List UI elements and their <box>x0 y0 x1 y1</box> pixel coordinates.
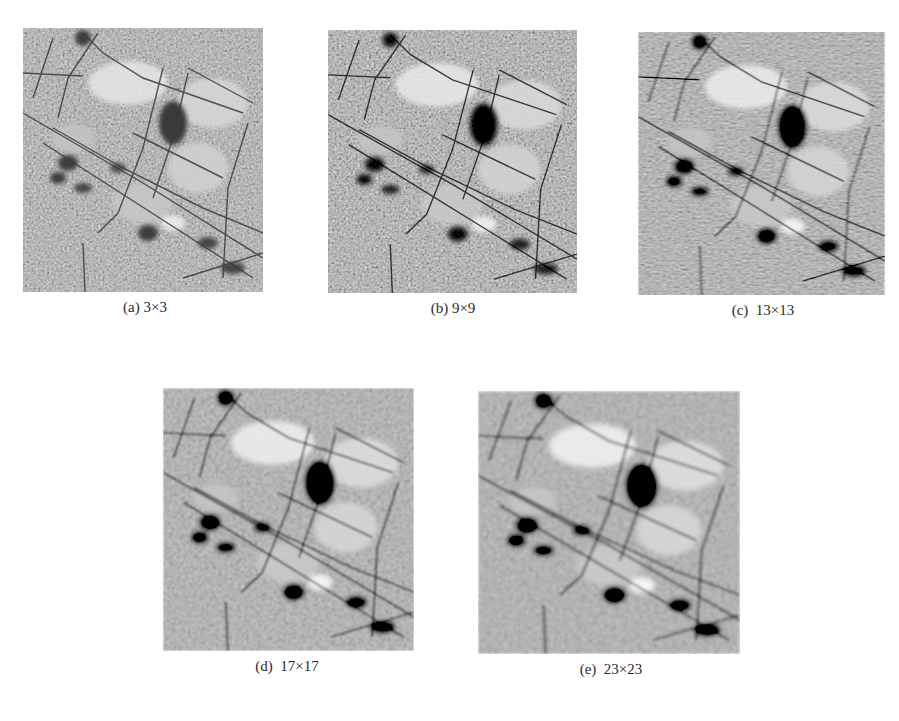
caption-c: (c) 13×13 <box>708 302 818 319</box>
caption-d: (d) 17×17 <box>232 658 342 675</box>
caption-b: (b) 9×9 <box>408 300 498 317</box>
sar-image-17x17 <box>163 388 414 651</box>
sar-image-9x9 <box>328 30 577 293</box>
panel-a-image <box>23 28 263 292</box>
panel-c-image <box>638 32 885 295</box>
panel-e-image <box>478 391 740 654</box>
sar-image-3x3 <box>23 28 263 292</box>
caption-a: (a) 3×3 <box>100 299 190 316</box>
caption-e: (e) 23×23 <box>556 661 666 678</box>
sar-image-23x23 <box>478 391 740 654</box>
panel-d-image <box>163 388 414 651</box>
sar-image-13x13 <box>638 32 885 295</box>
panel-b-image <box>328 30 577 293</box>
